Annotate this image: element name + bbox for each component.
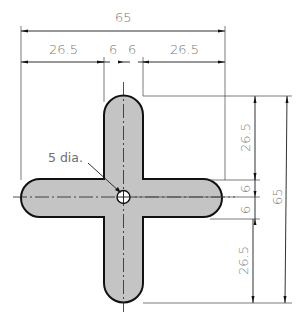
dim-label-overall-height: 65 bbox=[270, 188, 285, 205]
dim-label-upper-half: 6 bbox=[238, 185, 253, 193]
dim-overall-width bbox=[21, 30, 225, 33]
dim-label-left-half: 6 bbox=[109, 42, 117, 57]
dim-label-left-arm: 26.5 bbox=[49, 42, 78, 57]
dim-label-right-arm: 26.5 bbox=[170, 42, 199, 57]
dim-label-overall-width: 65 bbox=[115, 10, 132, 25]
center-hole bbox=[117, 191, 130, 204]
dim-label-bottom-arm: 26.5 bbox=[236, 246, 251, 275]
dim-horizontal-row bbox=[21, 61, 225, 64]
dim-label-lower-half: 6 bbox=[238, 206, 253, 214]
hole-callout-label: 5 dia. bbox=[48, 150, 83, 165]
cross-plate-drawing: 5 dia. 65 26.5 6 6 26.5 bbox=[0, 0, 308, 323]
dim-label-top-arm: 26.5 bbox=[238, 123, 253, 152]
dim-label-right-half: 6 bbox=[128, 42, 136, 57]
